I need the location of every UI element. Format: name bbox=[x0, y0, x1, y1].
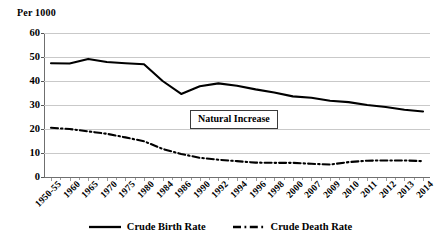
series-lines bbox=[44, 33, 430, 177]
legend-item-crude-birth-rate: Crude Birth Rate bbox=[88, 221, 206, 232]
series-line-crude-death-rate bbox=[51, 128, 423, 165]
y-tick-label-30: 30 bbox=[2, 100, 40, 111]
x-tick-label-2010: 2010 bbox=[340, 179, 361, 200]
legend-label-crude-birth-rate: Crude Birth Rate bbox=[127, 221, 206, 232]
x-tick-label-2013: 2013 bbox=[396, 179, 417, 200]
y-tick-label-0: 0 bbox=[2, 172, 40, 183]
x-tick-label-2000: 2000 bbox=[284, 179, 305, 200]
x-tick-label-1965: 1965 bbox=[79, 179, 100, 200]
legend-item-crude-death-rate: Crude Death Rate bbox=[232, 221, 353, 232]
y-tick-label-10: 10 bbox=[2, 148, 40, 159]
y-tick-label-40: 40 bbox=[2, 76, 40, 87]
legend-label-crude-death-rate: Crude Death Rate bbox=[271, 221, 353, 232]
x-tick-label-1984: 1984 bbox=[154, 179, 175, 200]
x-tick-label-1992: 1992 bbox=[210, 179, 231, 200]
plot-area bbox=[44, 33, 430, 177]
x-tick-label-1986: 1986 bbox=[172, 179, 193, 200]
x-tick-label-1994: 1994 bbox=[228, 179, 249, 200]
y-tick-label-60: 60 bbox=[2, 28, 40, 39]
x-tick-label-1980: 1980 bbox=[135, 179, 156, 200]
x-tick-label-1996: 1996 bbox=[247, 179, 268, 200]
x-tick-label-1970: 1970 bbox=[98, 179, 119, 200]
x-tick-label-2009: 2009 bbox=[321, 179, 342, 200]
y-axis-tick-labels: 0102030405060 bbox=[0, 0, 40, 243]
x-tick-label-1975: 1975 bbox=[117, 179, 138, 200]
x-tick-label-2011: 2011 bbox=[359, 179, 379, 199]
annotation-natural-increase: Natural Increase bbox=[190, 110, 278, 129]
x-tick-label-2007: 2007 bbox=[303, 179, 324, 200]
chart-legend: Crude Birth Rate Crude Death Rate bbox=[0, 221, 440, 232]
x-tick-label-2012: 2012 bbox=[377, 179, 398, 200]
chart-figure: Per 1000 0102030405060 1950-551960196519… bbox=[0, 0, 440, 243]
x-tick-label-1998: 1998 bbox=[265, 179, 286, 200]
solid-line-icon bbox=[88, 222, 122, 232]
x-tick-label-2014: 2014 bbox=[414, 179, 435, 200]
y-tick-label-20: 20 bbox=[2, 124, 40, 135]
y-tick-label-50: 50 bbox=[2, 52, 40, 63]
dash-dot-line-icon bbox=[232, 222, 266, 232]
x-tick-label-1990: 1990 bbox=[191, 179, 212, 200]
x-tick-label-1960: 1960 bbox=[61, 179, 82, 200]
series-line-crude-birth-rate bbox=[51, 59, 423, 112]
